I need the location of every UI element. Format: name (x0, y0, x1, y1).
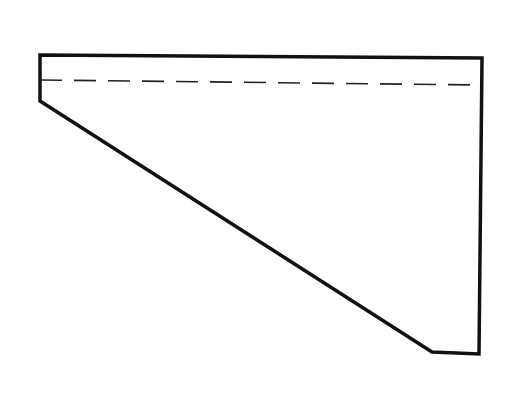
diagram-canvas (0, 0, 505, 394)
